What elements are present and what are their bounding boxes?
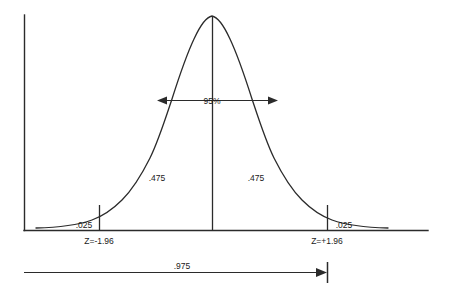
cumulative-arrow-head: [316, 268, 327, 277]
confidence-arrow-head-left: [157, 97, 167, 105]
right-half-area-label: .475: [248, 173, 265, 183]
confidence-arrow-head-right: [268, 97, 278, 105]
cumulative-area-label: .975: [174, 261, 191, 271]
left-half-area-label: .475: [149, 173, 166, 183]
left-critical-value-label: Z=-1.96: [84, 236, 114, 246]
left-tail-area-label: .025: [76, 220, 93, 230]
normal-distribution-figure: 95% .475 .475 .025 .025 Z=-1.96 Z=+1.96 …: [0, 0, 449, 292]
right-critical-value-label: Z=+1.96: [311, 236, 343, 246]
right-tail-area-label: .025: [336, 220, 353, 230]
confidence-level-label: 95%: [203, 96, 220, 106]
